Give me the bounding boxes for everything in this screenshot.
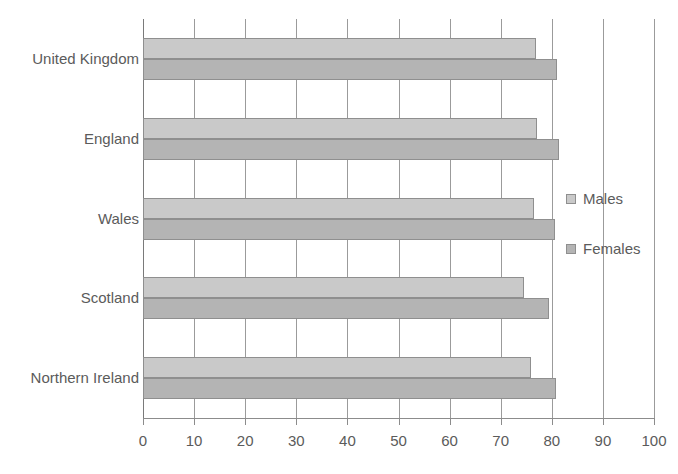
x-tick-label: 60 xyxy=(430,432,470,450)
chart-legend: MalesFemales xyxy=(566,190,666,290)
x-tick-label: 0 xyxy=(123,432,163,450)
x-tick-label: 70 xyxy=(481,432,521,450)
x-tick-label: 40 xyxy=(327,432,367,450)
bar-chart: United KingdomEnglandWalesScotlandNorthe… xyxy=(0,0,678,474)
legend-label: Females xyxy=(583,241,641,257)
legend-item: Males xyxy=(566,190,666,208)
tick-mark-20 xyxy=(245,418,246,425)
x-tick-label: 90 xyxy=(583,432,623,450)
legend-swatch-icon xyxy=(566,194,576,204)
legend-item: Females xyxy=(566,240,666,258)
tick-mark-100 xyxy=(654,418,655,425)
legend-label: Males xyxy=(583,191,623,207)
tick-mark-40 xyxy=(347,418,348,425)
tick-mark-50 xyxy=(399,418,400,425)
tick-mark-90 xyxy=(603,418,604,425)
legend-swatch-icon xyxy=(566,244,576,254)
x-tick-label: 20 xyxy=(225,432,265,450)
x-tick-label: 50 xyxy=(379,432,419,450)
tick-mark-70 xyxy=(501,418,502,425)
x-tick-label: 80 xyxy=(532,432,572,450)
tick-mark-0 xyxy=(143,418,144,425)
x-tick-label: 100 xyxy=(634,432,674,450)
tick-mark-10 xyxy=(194,418,195,425)
tick-mark-60 xyxy=(450,418,451,425)
tick-mark-80 xyxy=(552,418,553,425)
x-tick-label: 30 xyxy=(276,432,316,450)
tick-mark-30 xyxy=(296,418,297,425)
x-tick-label: 10 xyxy=(174,432,214,450)
